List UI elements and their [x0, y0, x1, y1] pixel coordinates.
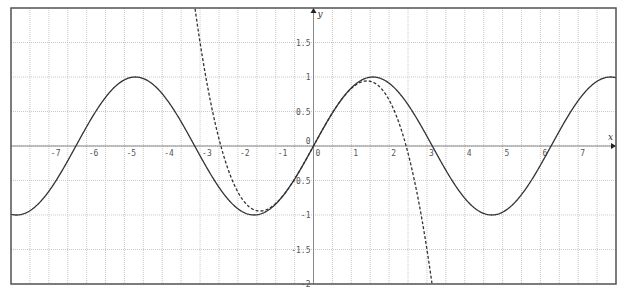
x-tick-label: -2	[240, 149, 250, 158]
x-tick-label: -7	[51, 149, 61, 158]
tick-labels: -7-6-5-4-3-2-11234567-2-1.5-1-0.50.511.5…	[51, 39, 585, 290]
x-tick-label: 2	[391, 149, 396, 158]
y-tick-label: -1	[301, 211, 311, 220]
x-tick-label: -6	[89, 149, 99, 158]
origin-label-x: 0	[316, 149, 321, 158]
x-tick-label: -4	[164, 149, 174, 158]
y-tick-label: 1	[306, 73, 311, 82]
y-tick-label: -1.5	[291, 246, 310, 255]
origin-label-y: 0	[306, 137, 311, 146]
y-tick-label: 0.5	[296, 108, 311, 117]
y-tick-label: 1.5	[296, 39, 311, 48]
function-plot: -7-6-5-4-3-2-11234567-2-1.5-1-0.50.511.5…	[0, 0, 626, 292]
x-tick-label: -3	[202, 149, 212, 158]
x-tick-label: -1	[278, 149, 288, 158]
x-tick-label: 4	[467, 149, 472, 158]
x-tick-label: 7	[580, 149, 585, 158]
x-tick-label: 3	[429, 149, 434, 158]
x-tick-label: 5	[505, 149, 510, 158]
x-axis-label: x	[608, 132, 613, 142]
x-tick-label: -5	[126, 149, 136, 158]
x-tick-label: 1	[353, 149, 358, 158]
y-axis-label: y	[317, 9, 324, 19]
